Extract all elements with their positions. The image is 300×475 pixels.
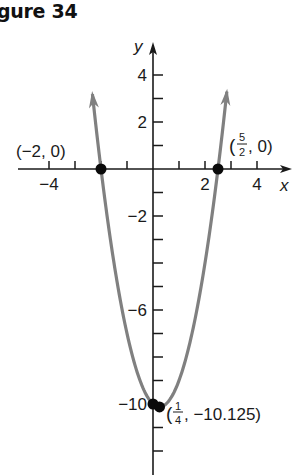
x-axis-label: x xyxy=(279,176,289,195)
point-label-vertex: (14, −10.125) xyxy=(166,400,261,426)
y-tick-label: −10 xyxy=(118,395,147,414)
labeled-points xyxy=(96,164,224,413)
y-tick-label: −2 xyxy=(128,207,147,226)
point-label-root-left: (−2, 0) xyxy=(16,142,66,161)
point-label-root-right: (52, 0) xyxy=(229,131,273,158)
point-marker xyxy=(154,401,165,412)
svg-text:, 0): , 0) xyxy=(248,137,273,156)
y-tick-label: −6 xyxy=(128,301,147,320)
parabola-path xyxy=(92,92,226,407)
svg-text:2: 2 xyxy=(239,146,245,158)
parabola-chart: −42442−2−6−10xy(−2, 0)(52, 0)(14, −10.12… xyxy=(0,0,300,475)
y-axis-label: y xyxy=(133,37,144,56)
x-tick-label: 4 xyxy=(252,175,261,194)
parabola-curve xyxy=(89,89,230,407)
svg-text:(: ( xyxy=(166,403,173,424)
svg-text:, −10.125): , −10.125) xyxy=(184,405,261,424)
x-tick-label: 2 xyxy=(200,175,209,194)
svg-text:4: 4 xyxy=(175,414,181,426)
y-tick-label: 2 xyxy=(138,113,147,132)
x-tick-label: −4 xyxy=(39,175,58,194)
svg-text:5: 5 xyxy=(239,131,245,143)
svg-text:1: 1 xyxy=(175,400,181,412)
svg-text:(: ( xyxy=(229,135,236,156)
point-marker xyxy=(213,164,224,175)
point-marker xyxy=(96,164,107,175)
y-tick-label: 4 xyxy=(138,66,147,85)
